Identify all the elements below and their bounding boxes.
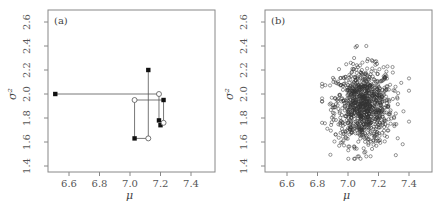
x-tick-label: 6.8 <box>310 178 326 189</box>
scatter-point <box>381 131 384 134</box>
open-circle-marker <box>132 98 137 103</box>
x-axis-title: μ <box>126 189 133 202</box>
y-tick-label: 1.8 <box>21 110 32 126</box>
y-axis-title: σ² <box>223 88 236 100</box>
plot-frame <box>48 10 215 172</box>
filled-square-marker <box>157 118 161 122</box>
scatter-point <box>388 83 391 86</box>
scatter-point <box>347 157 350 160</box>
scatter-point <box>375 144 378 147</box>
y-axis-title: σ² <box>6 88 19 100</box>
scatter-point <box>355 71 358 74</box>
scatter-point <box>365 44 368 47</box>
x-axis-title: μ <box>343 189 350 202</box>
filled-square-marker <box>161 98 165 102</box>
filled-square-marker <box>53 92 57 96</box>
scatter-point <box>396 103 399 106</box>
scatter-point <box>338 144 341 147</box>
y-tick-label: 2.2 <box>21 62 32 78</box>
gibbs-trace-line <box>55 70 163 138</box>
scatter-point <box>345 79 348 82</box>
scatter-point <box>339 116 342 119</box>
x-tick-label: 7.2 <box>371 178 387 189</box>
scatter-point <box>329 153 332 156</box>
scatter-point <box>374 69 377 72</box>
scatter-point <box>357 140 360 143</box>
panel-label: (a) <box>54 15 68 26</box>
scatter-point <box>369 155 372 158</box>
scatter-point <box>364 150 367 153</box>
scatter-point <box>334 118 337 121</box>
scatter-point <box>366 57 369 60</box>
scatter-point <box>391 65 394 68</box>
scatter-point <box>364 140 367 143</box>
scatter-point <box>320 100 323 103</box>
scatter-point <box>384 95 387 98</box>
scatter-point <box>361 61 364 64</box>
scatter-point <box>397 92 400 95</box>
scatter-point <box>383 140 386 143</box>
scatter-point <box>366 67 369 70</box>
y-tick-label: 1.6 <box>238 134 249 150</box>
scatter-point <box>342 144 345 147</box>
x-tick-label: 7.0 <box>122 178 138 189</box>
scatter-point <box>359 137 362 140</box>
scatter-point <box>324 84 327 87</box>
scatter-point <box>407 120 410 123</box>
filled-square-marker <box>132 136 136 140</box>
panel-label: (b) <box>271 15 285 26</box>
open-circle-marker <box>161 120 166 125</box>
scatter-point <box>407 89 410 92</box>
open-circle-marker <box>146 136 151 141</box>
scatter-point <box>402 110 405 113</box>
y-tick-label: 2.4 <box>21 38 32 54</box>
scatter-point <box>345 63 348 66</box>
scatter-point <box>370 147 373 150</box>
y-tick-label: 2.6 <box>238 14 249 30</box>
scatter-point <box>371 67 374 70</box>
scatter-point <box>366 60 369 63</box>
scatter-point <box>341 88 344 91</box>
scatter-point <box>386 65 389 68</box>
x-tick-label: 7.0 <box>340 178 356 189</box>
figure: 6.66.87.07.27.41.41.61.82.02.22.42.6μσ²(… <box>0 0 444 211</box>
scatter-point <box>389 122 392 125</box>
scatter-point <box>396 137 399 140</box>
scatter-point <box>400 81 403 84</box>
scatter-point <box>365 155 368 158</box>
x-tick-label: 7.4 <box>183 178 199 189</box>
scatter-point <box>326 127 329 130</box>
x-tick-label: 6.6 <box>61 178 77 189</box>
y-tick-label: 1.4 <box>238 158 249 174</box>
scatter-point <box>329 129 332 132</box>
scatter-point <box>394 112 397 115</box>
open-circle-marker <box>156 92 161 97</box>
x-tick-label: 6.8 <box>92 178 108 189</box>
scatter-point <box>333 140 336 143</box>
scatter-point <box>337 136 340 139</box>
scatter-point <box>330 96 333 99</box>
scatter-point <box>362 147 365 150</box>
scatter-point <box>391 71 394 74</box>
scatter-point <box>391 97 394 100</box>
y-tick-label: 2.0 <box>238 86 249 102</box>
y-tick-label: 1.8 <box>238 110 249 126</box>
y-tick-label: 2.0 <box>21 86 32 102</box>
x-tick-label: 7.2 <box>153 178 169 189</box>
scatter-point <box>394 154 397 157</box>
scatter-point <box>354 132 357 135</box>
scatter-point <box>359 157 362 160</box>
scatter-point <box>329 108 332 111</box>
scatter-point <box>407 77 410 80</box>
filled-square-marker <box>146 68 150 72</box>
y-tick-label: 2.2 <box>238 62 249 78</box>
scatter-point <box>382 66 385 69</box>
scatter-point <box>347 149 350 152</box>
y-tick-label: 2.4 <box>238 38 249 54</box>
x-tick-label: 7.4 <box>401 178 417 189</box>
scatter-point <box>353 56 356 59</box>
y-tick-label: 1.4 <box>21 158 32 174</box>
scatter-point <box>328 84 331 87</box>
scatter-point <box>378 68 381 71</box>
panel-a: 6.66.87.07.27.41.41.61.82.02.22.42.6μσ²(… <box>6 10 215 202</box>
